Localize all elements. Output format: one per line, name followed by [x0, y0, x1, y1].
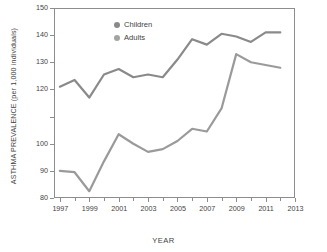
series-line-adults — [60, 54, 280, 191]
x-axis-tick: 2003 — [148, 198, 149, 202]
y-axis-tick-label: 120 — [36, 84, 48, 93]
x-axis-minor-tick — [251, 198, 252, 201]
x-axis-tick-label: 1999 — [82, 204, 98, 213]
x-axis-tick-label: 2007 — [199, 204, 215, 213]
y-axis-tick: 80 — [50, 198, 54, 199]
x-axis-minor-tick — [222, 198, 223, 201]
x-axis-tick: 2009 — [236, 198, 237, 202]
x-axis-tick-label: 1997 — [52, 204, 68, 213]
x-axis-tick: 2011 — [266, 198, 267, 202]
x-axis-tick: 1999 — [89, 198, 90, 202]
legend-label-children: Children — [124, 20, 152, 29]
legend-dot-children-icon — [114, 22, 120, 28]
asthma-prevalence-line-chart: ASTHMA PREVALENCE (per 1,000 individuals… — [0, 0, 327, 252]
y-axis-tick-label: 140 — [36, 30, 48, 39]
x-axis-tick-label: 2011 — [258, 204, 273, 213]
y-axis-title: ASTHMA PREVALENCE (per 1,000 individuals… — [10, 6, 18, 206]
x-axis-tick-label: 2005 — [170, 204, 186, 213]
legend-item-adults: Adults — [114, 33, 152, 42]
chart-legend: Children Adults — [114, 20, 152, 42]
x-axis-tick: 1997 — [60, 198, 61, 202]
x-axis-minor-tick — [104, 198, 105, 201]
x-axis-tick: 2007 — [207, 198, 208, 202]
y-axis-tick-label: 100 — [36, 139, 48, 148]
x-axis-minor-tick — [163, 198, 164, 201]
x-axis-tick-label: 2001 — [111, 204, 127, 213]
y-axis-tick-label: 90 — [40, 166, 48, 175]
x-axis-tick: 2013 — [295, 198, 296, 202]
x-axis-title: YEAR — [0, 236, 327, 245]
legend-item-children: Children — [114, 20, 152, 29]
y-axis-tick-label: 130 — [36, 57, 48, 66]
plot-area: 8090100120130140150 19971999200120032005… — [54, 8, 295, 198]
x-axis-tick-label: 2013 — [288, 204, 304, 213]
x-axis-minor-tick — [280, 198, 281, 201]
x-axis-tick: 2001 — [119, 198, 120, 202]
series-line-children — [60, 32, 280, 97]
x-axis-tick-label: 2003 — [141, 204, 157, 213]
x-axis-minor-tick — [192, 198, 193, 201]
series-lines — [54, 8, 295, 198]
y-axis-tick-label: 80 — [40, 193, 48, 202]
x-axis-tick: 2005 — [177, 198, 178, 202]
legend-dot-adults-icon — [114, 35, 120, 41]
x-axis-tick-label: 2009 — [229, 204, 245, 213]
x-axis-minor-tick — [75, 198, 76, 201]
y-axis-tick-label: 150 — [36, 3, 48, 12]
x-axis-minor-tick — [133, 198, 134, 201]
legend-label-adults: Adults — [124, 33, 145, 42]
